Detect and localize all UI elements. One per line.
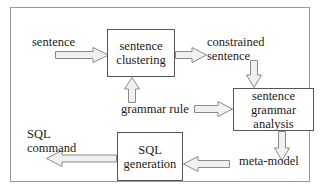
arrow-grammar-rule-into-analysis xyxy=(194,101,233,117)
process-box-sql-generation: SQL generation xyxy=(117,132,183,181)
box-label-line-1: SQL xyxy=(138,143,162,157)
arrow-sentence-into-clustering xyxy=(55,47,109,63)
flowchart-diagram: sentence clustering sentence grammar ana… xyxy=(0,0,327,193)
label-meta-model: meta-model xyxy=(239,154,299,168)
label-sql-command: SQL command xyxy=(27,127,76,155)
box-label-line-1: sentence xyxy=(119,39,162,53)
process-box-sentence-grammar-analysis: sentence grammar analysis xyxy=(233,88,314,131)
arrow-clustering-to-constrained-sentence xyxy=(175,47,207,63)
box-label-line-2: generation xyxy=(124,157,177,171)
box-label-line-1: sentence xyxy=(252,89,295,103)
label-constrained-sentence: constrained sentence xyxy=(207,35,265,63)
box-label-line-2: grammar xyxy=(251,103,296,117)
diagram-frame: sentence clustering sentence grammar ana… xyxy=(10,7,310,182)
box-label-line-3: analysis xyxy=(253,117,293,131)
label-input-sentence: sentence xyxy=(32,35,75,49)
box-label-line-2: clustering xyxy=(116,53,165,67)
label-constrained-sentence-line-1: constrained xyxy=(207,35,265,49)
arrow-meta-model-into-sql-generation xyxy=(183,156,230,172)
arrow-constrained-sentence-into-analysis xyxy=(246,60,262,88)
arrow-grammar-rule-into-clustering xyxy=(124,77,140,103)
label-constrained-sentence-line-2: sentence xyxy=(207,49,265,63)
label-grammar-rule: grammar rule xyxy=(121,102,189,116)
label-sql-command-line-2: command xyxy=(27,141,76,155)
label-sql-command-line-1: SQL xyxy=(27,127,76,141)
process-box-sentence-clustering: sentence clustering xyxy=(107,29,175,77)
